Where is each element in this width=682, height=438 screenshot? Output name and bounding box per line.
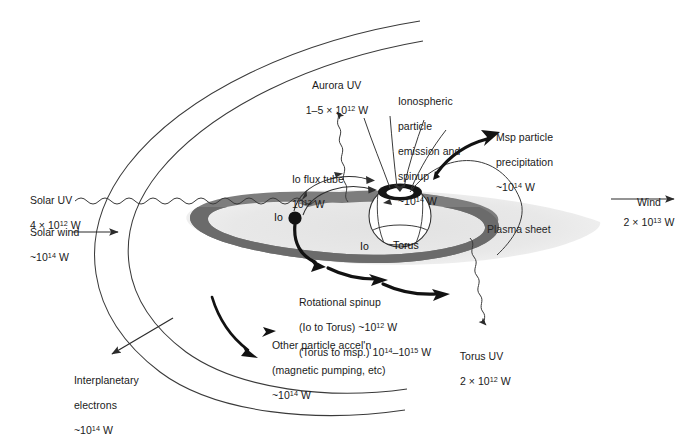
interplanetary-electrons-label: Interplanetary electrons ~1014 W (62, 361, 172, 438)
interplanetary-electrons-arrow (112, 318, 173, 354)
wind-label-bottom: 2 × 1013 W (604, 203, 682, 241)
aurora-uv-line2-post: W (355, 104, 368, 116)
torus-label: Torus (393, 239, 419, 251)
torus-uv-line2-post: W (498, 375, 511, 387)
msp-precipitation-label: Msp particle precipitation ~1014 W (484, 118, 580, 206)
ipe-line3-pre: ~10 (74, 424, 92, 436)
ipe-line1: Interplanetary (74, 374, 139, 386)
solar-wind-line1: Solar wind (30, 226, 80, 238)
iono-exp: 14 (416, 195, 424, 204)
ipe-exp: 14 (92, 424, 100, 433)
iono-line1: Ionospheric (398, 95, 453, 107)
ipe-line3-post: W (100, 424, 113, 436)
other-particle-label: Other particle accel'n (magnetic pumping… (260, 326, 450, 414)
solar-wind-exp: 14 (48, 251, 56, 260)
torus-text: Torus (393, 239, 419, 251)
solar-wind-label: Solar wind ~1014 W (18, 213, 110, 276)
other-line1: Other particle accel'n (272, 339, 371, 351)
aurora-uv-label: Aurora UV 1–5 × 1012 W (278, 66, 384, 129)
msp-line2: precipitation (496, 156, 553, 168)
io-flux-line2-pre: 10 (292, 198, 304, 210)
io-flux-line1: Io flux tube (292, 173, 344, 185)
solar-wind-line2-post: W (56, 251, 69, 263)
aurora-uv-line1: Aurora UV (312, 79, 361, 91)
other-particle-accel-arrow (212, 297, 258, 358)
aurora-uv-line2-pre: 1–5 × 10 (306, 104, 348, 116)
iono-line5-pre: ~10 (398, 195, 416, 207)
io-flux-tube-label: Io flux tube 1012 W (280, 160, 366, 223)
rot-line1: Rotational spinup (299, 296, 381, 308)
ipe-line2: electrons (74, 399, 117, 411)
wind-line2-pre: 2 × 10 (624, 216, 654, 228)
ionospheric-label: Ionospheric particle emission and spinup… (386, 82, 478, 221)
torus-uv-line1: Torus UV (460, 350, 504, 362)
solar-wind-line2-pre: ~10 (30, 251, 48, 263)
io-flux-line2-post: W (312, 198, 325, 210)
plasma-sheet-label: Plasma sheet (487, 223, 551, 235)
torus-uv-label: Torus UV 2 × 1012 W (448, 337, 538, 400)
iono-line4: spinup (398, 170, 429, 182)
io-flux-exp: 12 (304, 198, 312, 207)
other-exp: 14 (290, 389, 298, 398)
msp-exp: 14 (514, 181, 522, 190)
other-line3-post: W (298, 389, 311, 401)
msp-line1: Msp particle (496, 131, 553, 143)
io-moon-label: Io (274, 211, 283, 223)
torus-uv-line2-pre: 2 × 10 (460, 375, 490, 387)
solar-uv-line1: Solar UV (30, 194, 72, 206)
msp-line3-post: W (522, 181, 535, 193)
iono-line2: particle (398, 120, 432, 132)
wind-line2-post: W (661, 216, 674, 228)
other-line2: (magnetic pumping, etc) (272, 364, 386, 376)
io-inner-text: Io (360, 240, 369, 252)
other-line3-pre: ~10 (272, 389, 290, 401)
iono-line3: emission and (398, 145, 460, 157)
iono-line5-post: W (424, 195, 437, 207)
io-moon-text: Io (274, 211, 283, 223)
io-inner-label: Io (360, 240, 369, 252)
plasma-sheet-text: Plasma sheet (487, 223, 551, 235)
torus-uv-exp: 12 (490, 375, 498, 384)
msp-line3-pre: ~10 (496, 181, 514, 193)
